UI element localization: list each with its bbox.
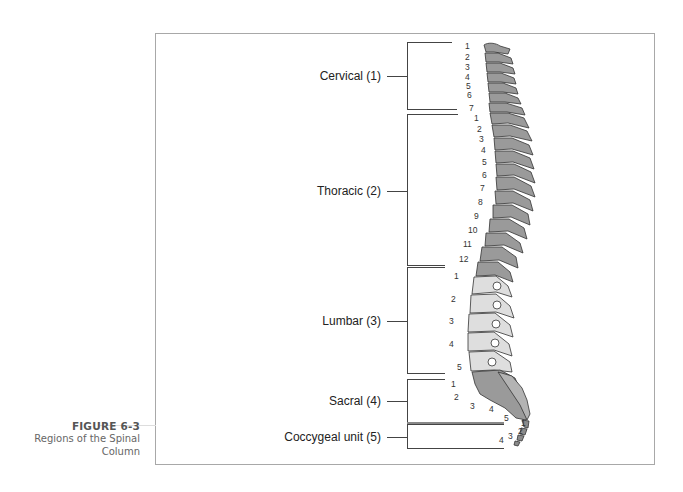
- cervical-num-6: 6: [467, 90, 472, 100]
- sacral-num-1: 1: [451, 379, 456, 389]
- thoracic-num-12: 12: [459, 254, 468, 264]
- thoracic-num-2: 2: [477, 124, 482, 134]
- thoracic-num-11: 11: [463, 239, 472, 249]
- lumbar-num-2: 2: [451, 294, 456, 304]
- thoracic-num-10: 10: [468, 225, 477, 235]
- spinal-column-illustration: [0, 0, 683, 492]
- coccygeal-num-3: 3: [508, 431, 513, 441]
- lumbar-vertebrae: [468, 276, 514, 372]
- thoracic-num-4: 4: [481, 145, 486, 155]
- thoracic-num-1: 1: [474, 113, 479, 123]
- cervical-num-7: 7: [469, 103, 474, 113]
- lumbar-num-3: 3: [449, 316, 454, 326]
- coccygeal-num-2: 2: [518, 426, 523, 436]
- cervical-num-1: 1: [465, 41, 470, 51]
- sacral-num-5: 5: [504, 413, 509, 423]
- cervical-num-3: 3: [465, 62, 470, 72]
- thoracic-num-3: 3: [479, 134, 484, 144]
- cervical-num-2: 2: [465, 52, 470, 62]
- thoracic-num-6: 6: [482, 170, 487, 180]
- sacral-num-2: 2: [454, 392, 459, 402]
- thoracic-num-7: 7: [480, 183, 485, 193]
- lumbar-num-1: 1: [454, 271, 459, 281]
- thoracic-num-9: 9: [474, 211, 479, 221]
- sacral-num-4: 4: [489, 404, 494, 414]
- lumbar-num-4: 4: [449, 339, 454, 349]
- sacral-num-3: 3: [470, 401, 475, 411]
- thoracic-vertebrae: [476, 113, 535, 282]
- sacrum: [472, 370, 530, 420]
- thoracic-num-8: 8: [478, 197, 483, 207]
- coccygeal-num-4: 4: [499, 435, 504, 445]
- thoracic-num-5: 5: [482, 157, 487, 167]
- cervical-vertebrae: [484, 43, 525, 115]
- lumbar-num-5: 5: [457, 362, 462, 372]
